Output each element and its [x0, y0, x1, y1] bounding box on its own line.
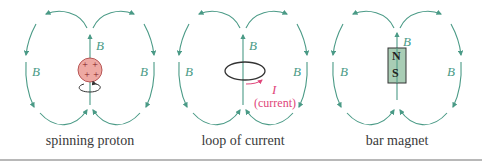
magnet-south-pole: S	[392, 66, 399, 81]
field-label-axis: B	[403, 34, 411, 50]
svg-text:+: +	[84, 69, 90, 80]
panel-spinning-proton: ++ ++	[26, 11, 154, 124]
field-label-axis: B	[249, 38, 257, 54]
magnet-north-pole: N	[392, 49, 401, 64]
current-direction-arrow-icon	[246, 80, 262, 84]
caption-bar-magnet: bar magnet	[317, 133, 477, 149]
field-label-right: B	[447, 64, 455, 80]
current-loop	[225, 62, 265, 80]
current-label: (current)	[254, 96, 296, 111]
field-label-right: B	[293, 64, 301, 80]
field-label-right: B	[140, 64, 148, 80]
caption-spinning-proton: spinning proton	[10, 133, 170, 149]
caption-loop-of-current: loop of current	[163, 133, 323, 149]
field-label-left: B	[185, 64, 193, 80]
bottom-divider	[0, 159, 482, 161]
field-label-left: B	[340, 64, 348, 80]
field-label-left: B	[32, 64, 40, 80]
field-label-axis: B	[96, 38, 104, 54]
svg-text:+: +	[93, 69, 99, 80]
